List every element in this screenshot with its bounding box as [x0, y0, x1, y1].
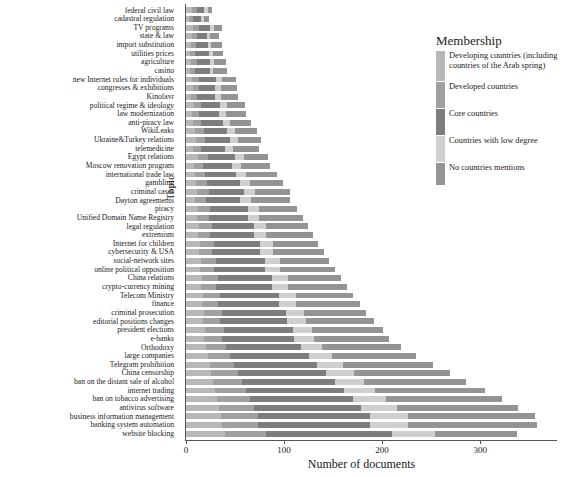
bar-segment [294, 336, 315, 342]
stacked-bar[interactable] [186, 379, 466, 385]
x-axis-tick [480, 440, 481, 444]
stacked-bar[interactable] [186, 310, 366, 316]
bar-segment [230, 353, 308, 359]
stacked-bar[interactable] [186, 396, 502, 402]
bar-row [186, 257, 537, 266]
stacked-bar[interactable] [186, 422, 537, 428]
stacked-bar[interactable] [186, 68, 227, 74]
stacked-bar[interactable] [186, 258, 329, 264]
stacked-bar[interactable] [186, 189, 290, 195]
bar-segment [186, 102, 194, 108]
bar-segment [288, 275, 341, 281]
stacked-bar[interactable] [186, 59, 226, 65]
stacked-bar[interactable] [186, 344, 401, 350]
bar-segment [364, 379, 466, 385]
legend-swatch [436, 82, 445, 108]
stacked-bar[interactable] [186, 111, 246, 117]
legend-entry[interactable]: No countries mentions [436, 163, 586, 185]
stacked-bar[interactable] [186, 370, 450, 376]
stacked-bar[interactable] [186, 154, 268, 160]
bar-row [186, 360, 537, 369]
bar-row [186, 317, 537, 326]
stacked-bar[interactable] [186, 7, 212, 13]
stacked-bar[interactable] [186, 25, 222, 31]
stacked-bar[interactable] [186, 180, 283, 186]
legend-entry[interactable]: Countries with low degree [436, 136, 586, 162]
legend-entry[interactable]: Developing countries (including countrie… [436, 51, 586, 81]
stacked-bar[interactable] [186, 318, 374, 324]
stacked-bar[interactable] [186, 42, 222, 48]
bar-segment [219, 111, 226, 117]
stacked-bar[interactable] [186, 353, 416, 359]
stacked-bar[interactable] [186, 172, 277, 178]
stacked-bar[interactable] [186, 120, 251, 126]
bar-segment [344, 388, 375, 394]
bar-segment [195, 68, 210, 74]
x-axis-tick-label: 0 [166, 445, 206, 455]
stacked-bar[interactable] [186, 293, 353, 299]
bar-segment [272, 284, 288, 290]
legend-label: No countries mentions [449, 163, 525, 173]
bar-segment [186, 267, 200, 273]
bar-row [186, 429, 537, 438]
bar-segment [201, 120, 224, 126]
bar-row [186, 222, 537, 231]
stacked-bar[interactable] [186, 405, 518, 411]
stacked-bar[interactable] [186, 431, 517, 437]
bar-segment [186, 327, 205, 333]
stacked-bar[interactable] [186, 77, 236, 83]
bar-row [186, 283, 537, 292]
stacked-bar[interactable] [186, 223, 308, 229]
stacked-bar[interactable] [186, 206, 297, 212]
stacked-bar[interactable] [186, 102, 245, 108]
bar-segment [258, 422, 370, 428]
bar-segment [343, 362, 433, 368]
stacked-bar[interactable] [186, 146, 259, 152]
stacked-bar[interactable] [186, 128, 257, 134]
x-axis-tick-label: 200 [362, 445, 402, 455]
bar-segment [186, 301, 202, 307]
bar-segment [273, 241, 318, 247]
y-axis-category-labels: federal civil lawcadastral regulationTV … [0, 6, 178, 438]
stacked-bar[interactable] [186, 94, 238, 100]
stacked-bar[interactable] [186, 413, 535, 419]
bar-row [186, 369, 537, 378]
stacked-bar[interactable] [186, 215, 303, 221]
stacked-bar[interactable] [186, 163, 270, 169]
stacked-bar[interactable] [186, 16, 209, 22]
stacked-bar[interactable] [186, 51, 223, 57]
stacked-bar[interactable] [186, 232, 313, 238]
bar-segment [266, 431, 391, 437]
stacked-bar[interactable] [186, 284, 347, 290]
bar-segment [213, 51, 223, 57]
bar-segment [186, 172, 195, 178]
bar-segment [266, 232, 313, 238]
bar-segment [207, 180, 240, 186]
bar-segment [222, 310, 286, 316]
legend-entry[interactable]: Core countries [436, 109, 586, 135]
stacked-bar[interactable] [186, 249, 324, 255]
legend-swatch [436, 163, 445, 185]
legend-entry[interactable]: Developed countries [436, 82, 586, 108]
stacked-bar[interactable] [186, 275, 341, 281]
bar-segment [209, 215, 248, 221]
stacked-bar[interactable] [186, 362, 433, 368]
stacked-bar[interactable] [186, 85, 237, 91]
stacked-bar[interactable] [186, 33, 219, 39]
bar-segment [240, 180, 250, 186]
stacked-bar[interactable] [186, 137, 261, 143]
bar-segment [248, 215, 260, 221]
bar-segment [201, 102, 221, 108]
bar-segment [212, 249, 259, 255]
stacked-bar[interactable] [186, 327, 383, 333]
bar-segment [235, 128, 257, 134]
stacked-bar[interactable] [186, 197, 290, 203]
bar-segment [272, 275, 288, 281]
y-axis-label: ban on the distant sale of alcohol [0, 378, 178, 387]
stacked-bar[interactable] [186, 267, 335, 273]
stacked-bar[interactable] [186, 301, 360, 307]
stacked-bar[interactable] [186, 336, 389, 342]
stacked-bar[interactable] [186, 241, 318, 247]
stacked-bar[interactable] [186, 388, 485, 394]
bar-row [186, 265, 537, 274]
